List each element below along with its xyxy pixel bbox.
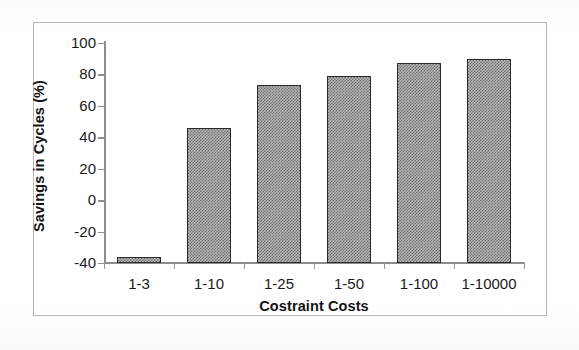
y-axis-tick-mark xyxy=(98,169,104,170)
y-axis-tick-label: 40 xyxy=(48,127,96,147)
y-axis-tick-mark xyxy=(98,200,104,201)
bar-chart: Savings in Cycles (%) 100806040200-20-40… xyxy=(0,0,579,350)
x-axis-tick-label: 1-50 xyxy=(314,275,384,292)
bar xyxy=(467,59,511,263)
y-axis-tick-label: 80 xyxy=(48,64,96,84)
x-axis-tick-label: 1-10000 xyxy=(454,275,524,292)
bar xyxy=(117,257,161,263)
y-axis-tick-label: 0 xyxy=(48,190,96,210)
x-axis-tick-mark xyxy=(104,262,105,269)
plot-area: 100806040200-20-40 1-31-101-251-501-1001… xyxy=(104,43,524,263)
y-axis-tick-mark xyxy=(98,137,104,138)
x-axis-tick-mark xyxy=(244,262,245,269)
y-axis-tick-mark xyxy=(98,106,104,107)
y-axis-tick-mark xyxy=(98,74,104,75)
bar xyxy=(327,76,371,263)
x-axis-tick-mark xyxy=(454,262,455,269)
y-axis-tick-label: -40 xyxy=(48,253,96,273)
x-axis-tick-label: 1-10 xyxy=(174,275,244,292)
x-axis-title: Costraint Costs xyxy=(104,298,524,314)
x-axis-tick-mark xyxy=(314,262,315,269)
x-axis-tick-mark xyxy=(384,262,385,269)
y-axis-tick-label: 20 xyxy=(48,159,96,179)
y-axis-title: Savings in Cycles (%) xyxy=(31,56,47,256)
x-axis-tick-label: 1-100 xyxy=(384,275,454,292)
x-axis-tick-mark xyxy=(174,262,175,269)
x-axis-tick-mark xyxy=(524,262,525,269)
bar xyxy=(397,63,441,263)
y-axis-tick-label: 60 xyxy=(48,96,96,116)
bar xyxy=(257,85,301,263)
x-axis-tick-label: 1-3 xyxy=(104,275,174,292)
y-axis-tick-mark xyxy=(98,43,104,44)
y-axis-tick-mark xyxy=(98,232,104,233)
y-axis-tick-label: -20 xyxy=(48,222,96,242)
x-axis-tick-label: 1-25 xyxy=(244,275,314,292)
y-axis-tick-label: 100 xyxy=(48,33,96,53)
bar xyxy=(187,128,231,263)
